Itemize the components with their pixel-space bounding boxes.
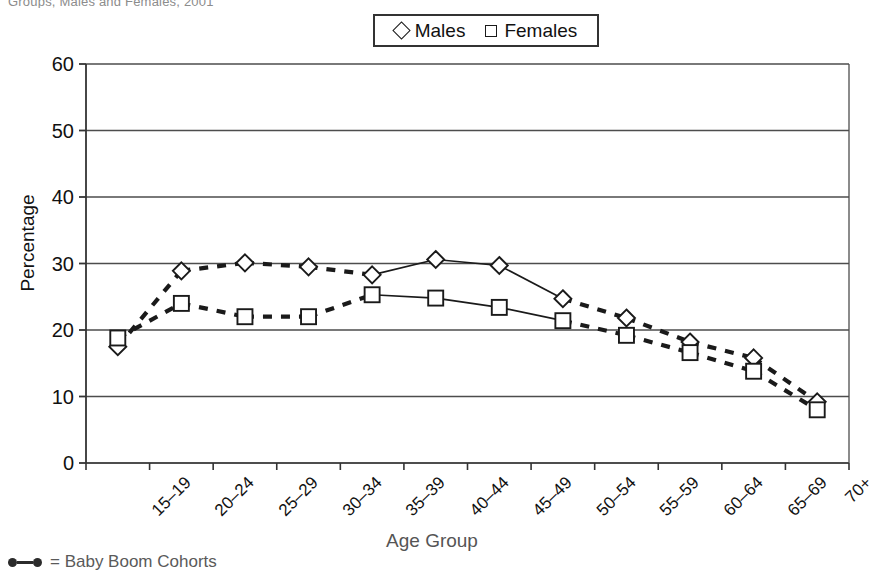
data-point-square xyxy=(746,364,761,379)
data-point-diamond xyxy=(427,251,444,268)
data-point-square xyxy=(365,287,380,302)
data-point-square xyxy=(810,402,825,417)
series-line-dashed xyxy=(754,358,818,402)
series-line-dashed xyxy=(118,303,182,338)
data-point-square xyxy=(619,328,634,343)
series-line-dashed xyxy=(754,371,818,410)
series-line-solid xyxy=(499,307,563,320)
series-line-dashed xyxy=(309,267,373,275)
data-point-diamond xyxy=(491,257,508,274)
data-point-diamond xyxy=(554,290,571,307)
data-point-square xyxy=(555,313,570,328)
baby-boom-footnote: = Baby Boom Cohorts xyxy=(8,552,217,572)
data-point-square xyxy=(237,309,252,324)
series-line-dashed xyxy=(563,321,627,336)
data-point-square xyxy=(110,330,125,345)
series-line-solid xyxy=(499,265,563,298)
data-point-diamond xyxy=(364,266,381,283)
data-point-diamond xyxy=(618,310,635,327)
x-axis-title: Age Group xyxy=(0,530,864,552)
data-point-square xyxy=(174,296,189,311)
series-line-dashed xyxy=(563,299,627,318)
data-point-square xyxy=(301,309,316,324)
series-line-solid xyxy=(372,295,436,298)
data-point-diamond xyxy=(300,258,317,275)
data-point-square xyxy=(428,291,443,306)
series-line-solid xyxy=(436,298,500,307)
data-point-diamond xyxy=(236,254,253,271)
baby-boom-footnote-text: = Baby Boom Cohorts xyxy=(50,552,217,572)
data-point-square xyxy=(683,345,698,360)
series-line-dashed xyxy=(309,295,373,317)
baby-boom-line-icon xyxy=(8,558,42,567)
series-line-dashed xyxy=(181,303,245,316)
data-point-square xyxy=(492,300,507,315)
series-line-dashed xyxy=(690,342,754,358)
series-line-solid xyxy=(372,260,436,275)
series-line-solid xyxy=(436,260,500,266)
